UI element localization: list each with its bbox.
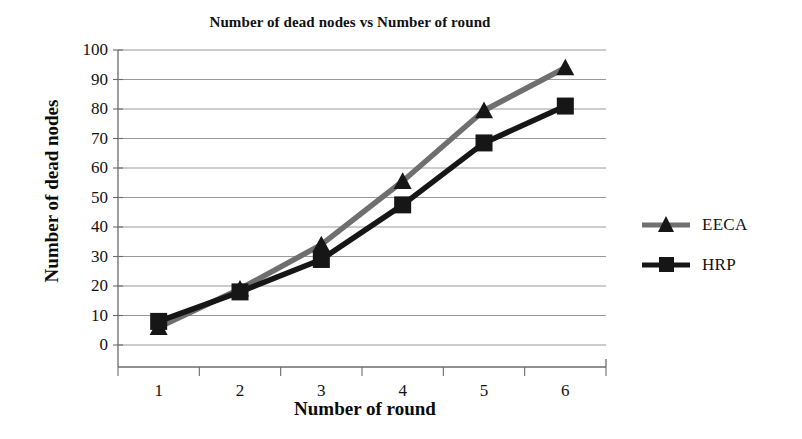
- data-point-marker-square: [313, 251, 330, 268]
- y-tick-label: 0: [64, 336, 108, 353]
- x-tick-label: 3: [301, 382, 341, 399]
- data-point-marker-square: [150, 313, 167, 330]
- data-point-marker-square: [557, 98, 574, 115]
- legend-label-hrp: HRP: [702, 255, 736, 275]
- gridlines: [118, 50, 606, 345]
- y-tick-label: 100: [64, 41, 108, 58]
- x-tick-label: 2: [220, 382, 260, 399]
- y-tick-label: 40: [64, 218, 108, 235]
- y-tick-label: 80: [64, 100, 108, 117]
- y-tick-label: 90: [64, 71, 108, 88]
- x-tick-label: 4: [383, 382, 423, 399]
- data-point-marker-square: [476, 134, 493, 151]
- chart-figure: Number of dead nodes vs Number of round …: [0, 0, 802, 439]
- y-tick-label: 30: [64, 248, 108, 265]
- legend: EECA HRP: [640, 205, 790, 285]
- legend-item-eeca: EECA: [640, 205, 790, 245]
- data-point-marker-square: [232, 283, 249, 300]
- data-series-layer: [150, 59, 575, 335]
- legend-swatch-triangle-icon: [640, 214, 692, 236]
- y-tick-label: 60: [64, 159, 108, 176]
- y-tick-label: 50: [64, 189, 108, 206]
- data-point-marker-square: [394, 196, 411, 213]
- data-point-marker-triangle: [556, 59, 574, 76]
- x-tick-label: 6: [545, 382, 585, 399]
- y-tick-label: 20: [64, 277, 108, 294]
- legend-label-eeca: EECA: [702, 215, 748, 235]
- axis-lines: [118, 50, 606, 367]
- legend-swatch-square-icon: [640, 254, 692, 276]
- x-tick-label: 1: [139, 382, 179, 399]
- y-tick-label: 70: [64, 130, 108, 147]
- x-tick-label: 5: [464, 382, 504, 399]
- legend-item-hrp: HRP: [640, 245, 790, 285]
- y-tick-label: 10: [64, 307, 108, 324]
